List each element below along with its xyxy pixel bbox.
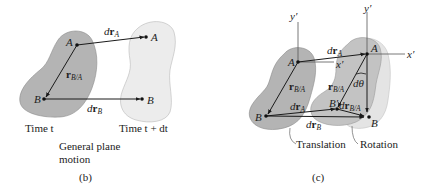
label-A-initial: A bbox=[287, 56, 295, 68]
label-B-initial: B bbox=[255, 111, 262, 123]
label-translation: Translation bbox=[296, 138, 346, 150]
label-drA: drA bbox=[104, 25, 119, 39]
figure-label-b: (b) bbox=[79, 171, 92, 184]
point-A-prime bbox=[144, 35, 148, 39]
caption-time-t-dt: Time t + dt bbox=[119, 122, 168, 134]
caption-time-t: Time t bbox=[25, 122, 54, 134]
label-x-prime-right: x′ bbox=[406, 48, 415, 60]
label-A-final: A bbox=[370, 42, 378, 54]
label-drA-top: drA bbox=[327, 44, 342, 58]
figure-label-c: (c) bbox=[312, 171, 325, 184]
point-B-prime bbox=[140, 97, 144, 101]
label-dtheta: dθ bbox=[353, 77, 365, 89]
label-drB: drB bbox=[87, 102, 102, 116]
label-x-prime-left: x′ bbox=[335, 58, 344, 70]
point-A-final bbox=[365, 52, 369, 56]
point-B-initial bbox=[264, 114, 268, 118]
panel-b: A B A B drA rB/A drB Time t Time t + dt … bbox=[20, 22, 176, 184]
point-B bbox=[42, 97, 46, 101]
rigid-body-time-t-plus-dt bbox=[121, 22, 176, 122]
label-B-prime: B′ bbox=[329, 97, 339, 109]
label-y-prime-left: y′ bbox=[289, 10, 298, 22]
label-B: B bbox=[34, 93, 41, 105]
plane-motion-diagram: A B A B drA rB/A drB Time t Time t + dt … bbox=[0, 0, 433, 194]
label-rotation: Rotation bbox=[360, 138, 398, 150]
panel-c: y′ x′ y′ x′ A B A B B′ drA rB/A bbox=[249, 2, 415, 184]
label-y-prime-right: y′ bbox=[363, 2, 372, 14]
label-A-dt: A bbox=[150, 31, 158, 43]
label-A: A bbox=[65, 36, 73, 48]
point-A bbox=[75, 43, 79, 47]
caption-general-plane: General plane bbox=[59, 140, 120, 152]
point-A-initial bbox=[296, 60, 300, 64]
label-B-final: B bbox=[371, 117, 378, 129]
label-B-dt: B bbox=[147, 94, 154, 106]
leader-rotation bbox=[352, 126, 358, 144]
caption-motion: motion bbox=[59, 153, 91, 165]
